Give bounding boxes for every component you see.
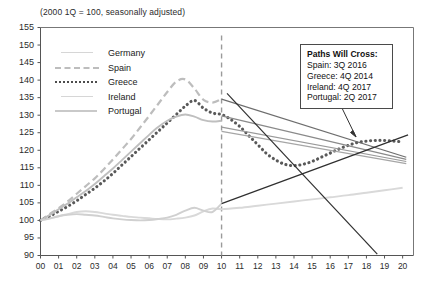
y-tick-140: 140 [8, 76, 34, 85]
legend-swatch-greece-icon [55, 77, 99, 87]
callout-arrow [340, 106, 356, 137]
x-tick-16: 16 [321, 262, 339, 271]
legend-item-portugal[interactable]: Portugal [55, 104, 145, 119]
x-tick-15: 15 [303, 262, 321, 271]
legend-swatch-spain-icon [55, 63, 99, 73]
series-portugal [41, 204, 222, 221]
legend-item-germany[interactable]: Germany [55, 46, 145, 61]
y-tick-125: 125 [8, 128, 34, 137]
x-tick-19: 19 [376, 262, 394, 271]
y-tick-150: 150 [8, 41, 34, 50]
y-tick-115: 115 [8, 163, 34, 172]
x-tick-09: 09 [194, 262, 212, 271]
callout-line-greece: Greece: 4Q 2014 [307, 71, 387, 82]
y-tick-95: 95 [8, 233, 34, 242]
y-tick-130: 130 [8, 111, 34, 120]
x-tick-17: 17 [339, 262, 357, 271]
x-tick-13: 13 [267, 262, 285, 271]
chart-plot-area [0, 0, 435, 284]
x-tick-11: 11 [231, 262, 249, 271]
greece-projection [222, 116, 407, 159]
series-ireland [41, 114, 222, 220]
callout-line-portugal: Portugal: 2Q 2017 [307, 92, 387, 103]
x-tick-07: 07 [158, 262, 176, 271]
y-tick-155: 155 [8, 23, 34, 32]
y-tick-110: 110 [8, 181, 34, 190]
y-tick-120: 120 [8, 146, 34, 155]
x-tick-03: 03 [86, 262, 104, 271]
ireland-projection [222, 127, 407, 161]
chart-projection-lines [222, 93, 409, 254]
x-tick-01: 01 [50, 262, 68, 271]
x-tick-05: 05 [122, 262, 140, 271]
x-tick-12: 12 [249, 262, 267, 271]
chart-container: (2000 1Q = 100, seasonally adjusted) 909… [0, 0, 435, 284]
callout-title: Paths Will Cross: [307, 49, 387, 60]
x-tick-20: 20 [394, 262, 412, 271]
y-tick-105: 105 [8, 198, 34, 207]
legend-swatch-germany-icon [55, 48, 99, 58]
callout-line-spain: Spain: 3Q 2016 [307, 60, 387, 71]
x-tick-14: 14 [285, 262, 303, 271]
ireland-projection-2 [222, 131, 407, 163]
legend-item-spain[interactable]: Spain [55, 61, 145, 76]
legend-label-greece: Greece [108, 77, 138, 87]
x-tick-18: 18 [357, 262, 375, 271]
legend-label-spain: Spain [108, 63, 131, 73]
x-tick-04: 04 [104, 262, 122, 271]
x-tick-06: 06 [140, 262, 158, 271]
y-tick-90: 90 [8, 251, 34, 260]
legend-swatch-ireland-icon [55, 92, 99, 102]
x-tick-02: 02 [68, 262, 86, 271]
legend-label-portugal: Portugal [108, 106, 142, 116]
x-tick-10: 10 [213, 262, 231, 271]
legend-label-ireland: Ireland [108, 92, 136, 102]
y-tick-100: 100 [8, 216, 34, 225]
chart-legend: GermanySpainGreeceIrelandPortugal [55, 46, 145, 119]
x-tick-08: 08 [176, 262, 194, 271]
x-tick-00: 00 [32, 262, 50, 271]
legend-label-germany: Germany [108, 48, 145, 58]
portugal-projection-down [227, 93, 377, 254]
legend-item-greece[interactable]: Greece [55, 75, 145, 90]
portugal-projection-up [222, 135, 409, 204]
legend-item-ireland[interactable]: Ireland [55, 90, 145, 105]
callout-line-ireland: Ireland: 4Q 2017 [307, 82, 387, 93]
legend-swatch-portugal-icon [55, 106, 99, 116]
y-tick-145: 145 [8, 58, 34, 67]
y-tick-135: 135 [8, 93, 34, 102]
callout-box: Paths Will Cross: Spain: 3Q 2016 Greece:… [300, 44, 393, 109]
